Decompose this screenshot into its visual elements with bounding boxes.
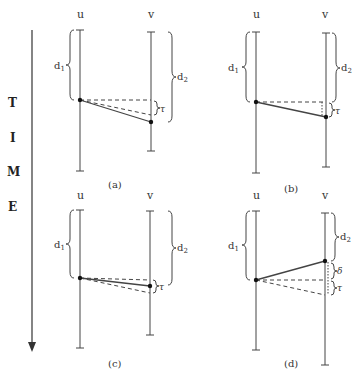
process-u-label: u [253, 8, 260, 21]
svg-text:d2: d2 [341, 62, 352, 75]
svg-text:d1: d1 [54, 239, 65, 252]
time-letter-m: M [7, 165, 20, 179]
tau-label: τ [159, 282, 165, 292]
arrow-down-icon [28, 342, 36, 352]
caption-c: (c) [108, 358, 122, 369]
process-u-label: u [253, 189, 260, 202]
time-letter-t: T [8, 96, 17, 110]
time-letter-i: I [10, 131, 16, 145]
brace-d1 [242, 32, 250, 102]
brace-d2 [331, 213, 339, 261]
time-axis: T I M E [7, 30, 36, 352]
svg-text:d1: d1 [228, 62, 239, 75]
brace-d1 [242, 211, 250, 280]
brace-d2 [168, 32, 176, 122]
process-v-label: v [147, 8, 155, 21]
svg-text:d2: d2 [177, 242, 188, 255]
caption-a: (a) [108, 179, 122, 190]
svg-text:d2: d2 [340, 231, 351, 244]
process-v-label: v [146, 189, 154, 202]
svg-text:d2: d2 [177, 71, 188, 84]
brace-d2 [332, 33, 340, 102]
delta-label: δ [337, 266, 342, 276]
tau-label: τ [335, 106, 341, 116]
process-u-label: u [77, 8, 84, 21]
time-letter-e: E [8, 200, 17, 214]
tau-label: τ [160, 104, 166, 114]
process-v-label: v [321, 189, 329, 202]
panel-d: u v d1 d2 δ τ (d) [228, 189, 351, 369]
process-u-label: u [77, 189, 84, 202]
brace-d2 [168, 211, 176, 285]
timing-diagram: T I M E u v d1 d2 τ (a) u v d1 d2 [0, 0, 361, 379]
svg-text:d1: d1 [228, 240, 239, 253]
panel-a: u v d1 d2 τ (a) [54, 8, 188, 190]
process-v-label: v [321, 8, 329, 21]
panel-b: u v d1 d2 τ (b) [228, 8, 352, 194]
brace-d1 [66, 30, 74, 100]
tau-label: τ [337, 283, 343, 293]
caption-d: (d) [284, 358, 298, 369]
svg-text:d1: d1 [54, 60, 65, 73]
brace-d1 [66, 210, 74, 278]
panel-c: u v d1 d2 τ (c) [54, 189, 188, 369]
caption-b: (b) [284, 183, 298, 194]
